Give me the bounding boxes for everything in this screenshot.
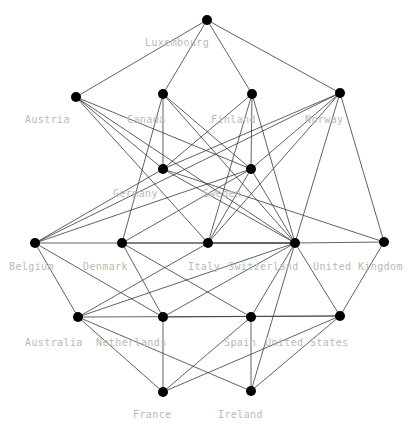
graph-node-netherlands[interactable] <box>158 312 168 322</box>
network-graph-canvas: LuxembourgAustriaCanadaFinlandNorwayGerm… <box>0 0 420 427</box>
graph-edge <box>76 97 251 169</box>
graph-node-canada[interactable] <box>158 89 168 99</box>
graph-edge <box>251 93 340 169</box>
graph-node-sweden[interactable] <box>246 164 256 174</box>
graph-node-france[interactable] <box>158 387 168 397</box>
graph-node-label-switzerland: Switzerland <box>228 261 299 272</box>
graph-node-label-norway: Norway <box>305 114 344 125</box>
graph-node-label-ireland: Ireland <box>218 409 263 420</box>
graph-edge <box>78 243 295 317</box>
graph-edge <box>78 243 208 317</box>
graph-edge <box>163 20 207 94</box>
graph-node-label-united_kingdom: United Kingdom <box>313 261 403 272</box>
graph-edge <box>340 93 384 242</box>
graph-node-label-sweden: Sweden <box>203 188 242 199</box>
graph-edge <box>163 317 251 392</box>
graph-node-label-netherlands: Netherlands <box>96 337 167 348</box>
graph-node-label-italy: Italy <box>188 261 220 272</box>
graph-edge <box>295 242 384 243</box>
graph-edge <box>251 316 340 391</box>
graph-node-label-germany: Germany <box>113 188 158 199</box>
graph-node-label-finland: Finland <box>211 114 256 125</box>
graph-node-label-canada: Canada <box>127 114 166 125</box>
graph-node-italy[interactable] <box>203 238 213 248</box>
graph-node-switzerland[interactable] <box>290 238 300 248</box>
graph-edge <box>207 20 340 93</box>
graph-node-label-belgium: Belgium <box>9 261 54 272</box>
graph-edge <box>295 243 340 316</box>
graph-node-label-france: France <box>133 409 172 420</box>
graph-node-label-austria: Austria <box>25 114 70 125</box>
graph-edge <box>340 242 384 316</box>
graph-node-united_kingdom[interactable] <box>379 237 389 247</box>
graph-node-belgium[interactable] <box>30 238 40 248</box>
graph-edge <box>163 243 295 317</box>
graph-edge <box>251 169 295 243</box>
graph-node-norway[interactable] <box>335 88 345 98</box>
graph-edge <box>122 169 251 243</box>
graph-edge <box>76 97 163 169</box>
graph-edge <box>163 316 340 392</box>
graph-edge <box>78 317 163 392</box>
graph-edge <box>207 20 252 94</box>
graph-node-label-denmark: Denmark <box>83 261 128 272</box>
graph-edge <box>78 317 251 391</box>
graph-node-australia[interactable] <box>73 312 83 322</box>
graph-node-label-australia: Australia <box>25 337 83 348</box>
graph-node-germany[interactable] <box>158 164 168 174</box>
graph-node-label-luxembourg: Luxembourg <box>145 37 209 48</box>
graph-node-label-spain: Spain <box>224 337 256 348</box>
graph-node-finland[interactable] <box>247 89 257 99</box>
graph-node-austria[interactable] <box>71 92 81 102</box>
graph-node-ireland[interactable] <box>246 386 256 396</box>
graph-edge <box>251 243 295 317</box>
graph-node-spain[interactable] <box>246 312 256 322</box>
graph-node-label-united_states: United States <box>265 337 348 348</box>
graph-edge <box>208 169 251 243</box>
graph-edge <box>35 243 78 317</box>
graph-node-denmark[interactable] <box>117 238 127 248</box>
graph-node-united_states[interactable] <box>335 311 345 321</box>
graph-node-luxembourg[interactable] <box>202 15 212 25</box>
graph-svg: LuxembourgAustriaCanadaFinlandNorwayGerm… <box>0 0 420 427</box>
graph-edge <box>76 20 207 97</box>
